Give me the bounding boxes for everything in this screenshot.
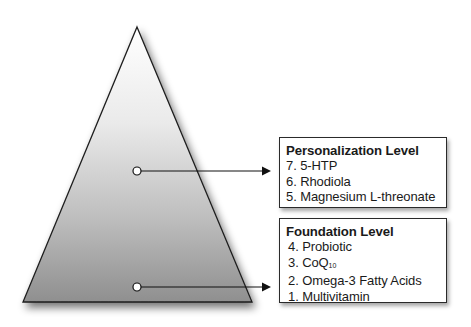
list-item: 4. Probiotic bbox=[286, 239, 446, 255]
foundation-arrowhead-icon bbox=[262, 283, 271, 292]
personalization-title: Personalization Level bbox=[286, 143, 446, 158]
list-item: 3. CoQ10 bbox=[286, 255, 446, 274]
list-item: 6. Rhodiola bbox=[286, 174, 446, 190]
foundation-level-box: Foundation Level 4. Probiotic 3. CoQ10 2… bbox=[279, 218, 447, 303]
personalization-level-box: Personalization Level 7. 5-HTP 6. Rhodio… bbox=[279, 137, 447, 208]
list-item: 7. 5-HTP bbox=[286, 158, 446, 174]
list-item: 2. Omega-3 Fatty Acids bbox=[286, 273, 446, 289]
list-item: 1. Multivitamin bbox=[286, 289, 446, 305]
pyramid-shape bbox=[23, 27, 252, 302]
personalization-arrowhead-icon bbox=[262, 167, 271, 176]
personalization-marker bbox=[133, 167, 141, 175]
foundation-marker bbox=[133, 283, 141, 291]
foundation-title: Foundation Level bbox=[286, 224, 446, 239]
list-item: 5. Magnesium L-threonate bbox=[286, 189, 446, 205]
